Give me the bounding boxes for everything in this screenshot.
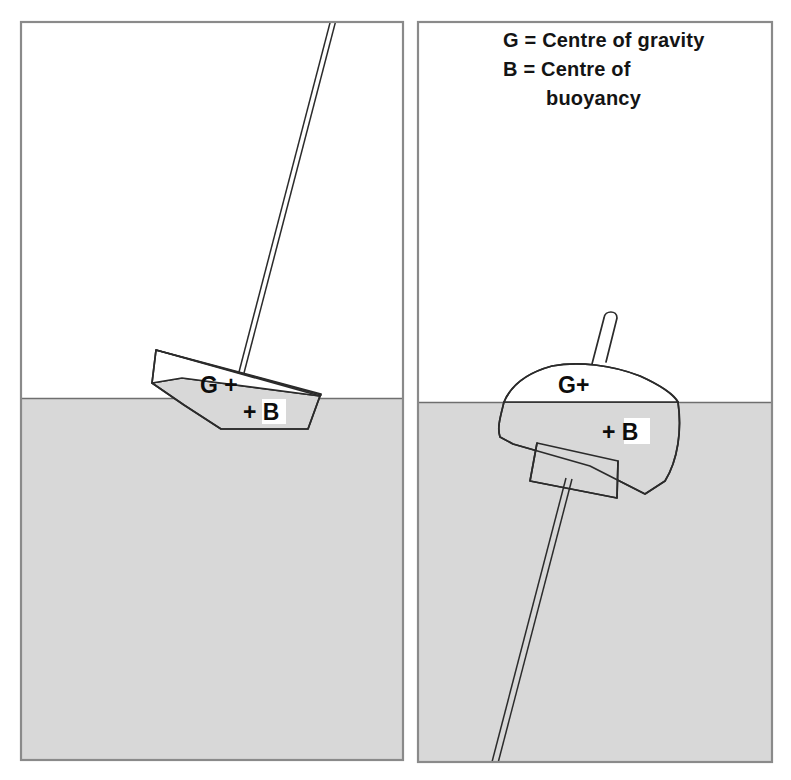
left-panel-group: G + + B	[21, 19, 403, 760]
legend-line-buoyancy-1: B = Centre of	[503, 58, 631, 80]
left-mast-head	[331, 19, 336, 20]
right-centre-of-gravity-label: G+	[558, 372, 589, 398]
left-centre-of-buoyancy-label: + B	[243, 399, 279, 425]
left-centre-of-gravity-label: G +	[200, 372, 238, 398]
boat-stability-diagram: G + + B	[0, 0, 791, 780]
right-panel-group: G+ + B G = Centre of gravity B = Centre …	[418, 22, 772, 763]
legend-line-buoyancy-2: buoyancy	[546, 87, 642, 109]
right-centre-of-buoyancy-label: + B	[602, 419, 638, 445]
legend-line-gravity: G = Centre of gravity	[503, 29, 705, 51]
diagram-stage: G + + B	[0, 0, 791, 780]
left-water-body	[21, 398, 403, 760]
